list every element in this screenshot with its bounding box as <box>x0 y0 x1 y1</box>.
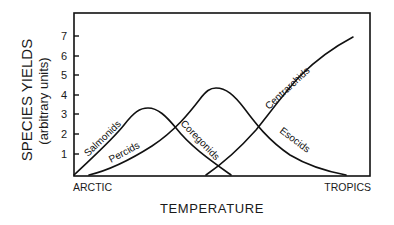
centrarchids-curve <box>206 37 353 175</box>
y-tick-2: 2 <box>61 128 67 140</box>
centrarchids-label: Centrarchids <box>263 65 312 112</box>
y-tick-7: 7 <box>61 30 67 42</box>
y-axis-subtitle: (arbitrary units) <box>36 57 51 144</box>
y-axis-title: SPECIES YIELDS <box>18 39 35 161</box>
coregonids-label: Coregonids <box>179 118 222 162</box>
y-axis-tick-labels: 1 2 3 4 5 6 7 <box>61 30 67 160</box>
y-tick-1: 1 <box>61 148 67 160</box>
x-axis-left-label: ARCTIC <box>73 181 113 193</box>
percids-curve <box>89 88 346 175</box>
x-axis-title: TEMPERATURE <box>160 201 264 216</box>
y-tick-4: 4 <box>61 89 67 101</box>
y-tick-3: 3 <box>61 108 67 120</box>
x-axis-right-label: TROPICS <box>324 181 371 193</box>
y-tick-6: 6 <box>61 50 67 62</box>
percids-label: Percids <box>107 139 142 164</box>
species-yield-chart: 1 2 3 4 5 6 7 SPECIES YIELDS (arbitrary … <box>0 0 394 225</box>
y-tick-5: 5 <box>61 69 67 81</box>
